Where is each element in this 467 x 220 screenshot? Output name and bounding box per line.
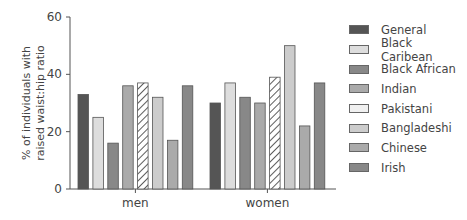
- y-tick-label: 0: [54, 182, 62, 196]
- bar-bangladeshi-men: [153, 97, 164, 189]
- legend-label: Pakistani: [381, 102, 432, 116]
- bar-indian-men: [123, 86, 134, 189]
- bars: [78, 46, 325, 189]
- legend-swatch: [349, 45, 369, 54]
- legend-swatch: [349, 124, 369, 133]
- legend-item: Irish: [349, 158, 467, 178]
- bar-irish-women: [314, 83, 325, 189]
- legend-item: Pakistani: [349, 99, 467, 119]
- bar-pakistani-men: [138, 83, 149, 189]
- bar-black-african-men: [108, 143, 119, 189]
- y-axis-label: % of individuals withraised waist:hip ra…: [20, 45, 47, 161]
- legend-item: Chinese: [349, 138, 467, 158]
- bar-chinese-men: [167, 140, 178, 189]
- y-tick-label: 20: [47, 125, 62, 139]
- legend-swatch: [349, 25, 369, 34]
- x-tick-label: men: [122, 196, 149, 210]
- bar-black-african-women: [240, 97, 251, 189]
- bar-general-men: [78, 94, 89, 189]
- y-tick-label: 40: [47, 67, 62, 81]
- legend-swatch: [349, 84, 369, 93]
- legend-swatch: [349, 104, 369, 113]
- bar-black-caribean-women: [225, 83, 236, 189]
- legend-swatch: [349, 65, 369, 74]
- legend-item: Black African: [349, 59, 467, 79]
- bar-pakistani-women: [270, 77, 281, 189]
- legend-item: Bangladeshi: [349, 118, 467, 138]
- x-tick-label: women: [245, 196, 289, 210]
- bar-chinese-women: [299, 126, 310, 189]
- legend-swatch: [349, 163, 369, 172]
- legend-label: Black Caribean: [381, 36, 467, 64]
- legend-label: Black African: [381, 62, 456, 76]
- legend-swatch: [349, 143, 369, 152]
- bar-general-women: [210, 103, 221, 189]
- bar-irish-men: [182, 86, 193, 189]
- legend-label: Chinese: [381, 141, 427, 155]
- y-tick-label: 60: [47, 10, 62, 24]
- legend-item: Indian: [349, 79, 467, 99]
- legend-label: Irish: [381, 161, 406, 175]
- legend-label: Bangladeshi: [381, 121, 452, 135]
- bar-indian-women: [255, 103, 266, 189]
- legend: GeneralBlack CaribeanBlack AfricanIndian…: [349, 20, 467, 178]
- bar-bangladeshi-women: [285, 46, 296, 189]
- legend-label: Indian: [381, 82, 417, 96]
- bar-black-caribean-men: [93, 117, 104, 189]
- legend-item: Black Caribean: [349, 40, 467, 60]
